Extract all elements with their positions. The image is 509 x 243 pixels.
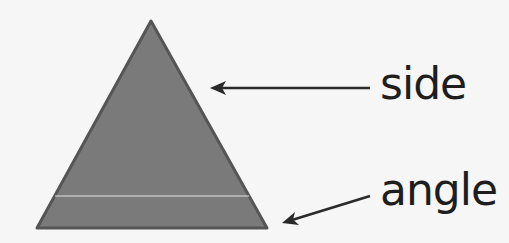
side-arrow — [210, 81, 370, 95]
angle-arrow — [282, 196, 370, 225]
side-label: side — [380, 62, 466, 106]
triangle-diagram: side angle — [0, 0, 509, 243]
angle-label: angle — [380, 168, 497, 212]
triangle-shape — [37, 21, 267, 228]
